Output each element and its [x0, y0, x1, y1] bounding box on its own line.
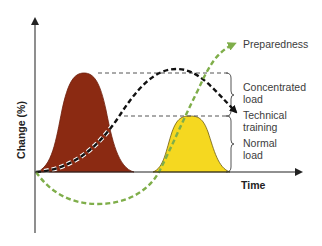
concentrated-load-label-line1: Concentrated [243, 81, 306, 93]
x-axis-label: Time [241, 179, 265, 191]
preparedness-label: Preparedness [243, 38, 308, 50]
periodization-diagram: Change (%) Time Preparedness Concentrate… [0, 0, 322, 246]
technical-training-label-line1: Technical [243, 109, 287, 121]
concentrated-load-area [36, 73, 134, 172]
normal-load-label-line2: load [243, 149, 263, 161]
concentrated-load-brace [226, 73, 234, 116]
y-axis-label: Change (%) [15, 101, 27, 159]
normal-load-area [153, 116, 230, 172]
normal-load-brace [226, 116, 234, 172]
normal-load-label-line1: Normal [243, 137, 277, 149]
concentrated-load-label-line2: load [243, 93, 263, 105]
technical-training-label-line2: training [243, 121, 278, 133]
